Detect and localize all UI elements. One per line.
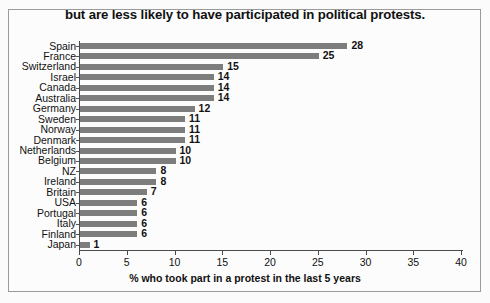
x-axis-tick-label: 15	[216, 256, 228, 268]
bar-row: 6	[80, 229, 462, 239]
bar	[80, 127, 185, 133]
bar-value-label: 7	[151, 185, 157, 197]
bar-value-label: 8	[160, 175, 166, 187]
bar	[80, 158, 176, 164]
bar	[80, 85, 214, 91]
bar	[80, 168, 156, 174]
bar-row: 11	[80, 114, 462, 124]
bar-value-label: 28	[351, 39, 363, 51]
bar-row: 14	[80, 83, 462, 93]
x-axis-tick-label: 0	[76, 256, 82, 268]
x-axis-tick-label: 10	[169, 256, 181, 268]
bar-row: 10	[80, 146, 462, 156]
bar-row: 6	[80, 198, 462, 208]
bar	[80, 74, 214, 80]
x-axis-tick-label: 20	[264, 256, 276, 268]
x-axis-tick	[222, 251, 223, 255]
category-axis-labels: SpainFranceSwitzerlandIsraelCanadaAustra…	[0, 41, 76, 250]
x-axis-tick	[127, 251, 128, 255]
chart-title: but are less likely to have participated…	[0, 7, 490, 22]
bar-row: 14	[80, 93, 462, 103]
bar-row: 8	[80, 166, 462, 176]
x-axis-tick	[270, 251, 271, 255]
bar-row: 12	[80, 104, 462, 114]
plot-area: 28251514141412111111101088766661	[80, 41, 462, 250]
bar-row: 10	[80, 156, 462, 166]
bar	[80, 210, 137, 216]
x-axis-tick	[318, 251, 319, 255]
bar	[80, 116, 185, 122]
x-axis-tick-label: 5	[124, 256, 130, 268]
bar	[80, 200, 137, 206]
bar-value-label: 1	[94, 238, 100, 250]
x-axis-tick-label: 30	[360, 256, 372, 268]
bar-row: 14	[80, 72, 462, 82]
bar-row: 28	[80, 41, 462, 51]
bar	[80, 179, 156, 185]
bar-row: 15	[80, 62, 462, 72]
bar-row: 7	[80, 187, 462, 197]
bar	[80, 106, 195, 112]
bar-row: 1	[80, 240, 462, 250]
bar	[80, 189, 147, 195]
x-axis-tick	[366, 251, 367, 255]
bar	[80, 148, 176, 154]
x-axis-tick-label: 25	[312, 256, 324, 268]
bar-value-label: 14	[218, 91, 230, 103]
x-axis-tick-label: 40	[455, 256, 467, 268]
bar-value-label: 6	[141, 227, 147, 239]
x-axis-tick	[175, 251, 176, 255]
x-axis-line	[79, 250, 463, 251]
bar-row: 8	[80, 177, 462, 187]
x-axis-title: % who took part in a protest in the last…	[0, 272, 490, 284]
bar	[80, 137, 185, 143]
category-label: Japan	[47, 238, 76, 250]
bar-row: 11	[80, 135, 462, 145]
x-axis-tick	[461, 251, 462, 255]
bar-value-label: 25	[323, 49, 335, 61]
bar-value-label: 12	[199, 102, 211, 114]
bar	[80, 231, 137, 237]
bar-value-label: 10	[180, 154, 192, 166]
bar-row: 11	[80, 125, 462, 135]
bar	[80, 43, 347, 49]
bar	[80, 95, 214, 101]
x-axis-tick	[79, 251, 80, 255]
bar-row: 25	[80, 51, 462, 61]
bar	[80, 221, 137, 227]
bar	[80, 242, 90, 248]
bar	[80, 53, 319, 59]
x-axis-tick	[413, 251, 414, 255]
bar-row: 6	[80, 208, 462, 218]
bar	[80, 64, 223, 70]
bar-row: 6	[80, 219, 462, 229]
x-axis-tick-label: 35	[407, 256, 419, 268]
